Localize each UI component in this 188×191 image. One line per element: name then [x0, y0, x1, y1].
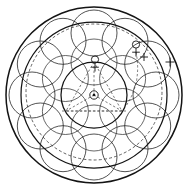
- venus-icon-inner: [91, 56, 99, 72]
- plus-mark-right: [166, 58, 175, 67]
- geometric-construction-figure: [0, 0, 188, 191]
- plus-mark-inner: [140, 53, 148, 61]
- dashed-radii: [66, 62, 122, 111]
- sun-icon: [90, 91, 98, 99]
- diagram-canvas: Geometric circle-packing construction di…: [0, 0, 188, 191]
- dashed-triangle: [66, 62, 122, 111]
